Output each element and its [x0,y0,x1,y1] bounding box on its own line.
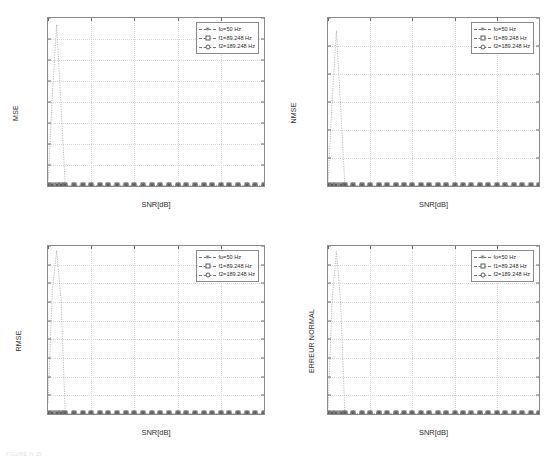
legend-item[interactable]: f1=89.248 Hz [474,34,530,43]
data-point-marker [444,183,449,188]
data-point-marker [192,411,197,416]
x-axis-tick-label: 40 [493,414,500,415]
legend-item[interactable]: f2=189.248 Hz [199,42,255,51]
data-point-marker [236,411,241,416]
x-axis-tick-label: 20 [131,186,138,187]
data-point-marker [385,411,390,416]
data-point-marker [141,411,146,416]
x-axis-tick-label: 10 [88,414,95,415]
data-point-marker [89,411,94,416]
x-axis-tick-label: 30 [451,414,458,415]
x-axis-tick-label: 40 [493,186,500,187]
data-point-marker [227,183,232,188]
legend-square-icon [474,34,491,41]
data-point-marker [418,183,423,188]
data-point-marker [376,411,381,416]
data-point-marker [342,411,347,416]
legend-star-icon: ✳ [474,26,491,33]
chart-legend[interactable]: ✳fo=50 Hzf1=89.248 Hzf2=189.248 Hz [471,250,534,282]
data-point-marker [511,183,516,188]
plot-area: 010203040500102030405060708090✳fo=50 Hzf… [327,245,540,415]
data-point-marker [63,411,68,416]
x-axis-label: SNR[dB] [47,428,265,437]
data-point-marker [477,183,482,188]
data-point-marker [115,411,120,416]
data-point-marker [97,183,102,188]
data-point-marker [141,183,146,188]
data-point-marker [132,411,137,416]
legend-label: f1=89.248 Hz [493,34,526,43]
chart-panel-rmse: RMSESNR[dB]01020304050010203040506070809… [0,228,275,453]
data-point-marker [166,411,171,416]
x-axis-tick-label: 30 [451,186,458,187]
legend-item[interactable]: f2=189.248 Hz [474,270,530,279]
data-point-marker [80,183,85,188]
legend-item[interactable]: ✳fo=50 Hz [199,253,255,262]
data-point-marker [511,411,516,416]
data-point-marker [418,411,423,416]
data-point-marker [175,411,180,416]
data-point-marker [149,411,154,416]
data-point-marker [452,183,457,188]
data-point-marker [401,183,406,188]
data-point-marker [244,183,249,188]
data-point-marker [469,411,474,416]
data-point-marker [236,183,241,188]
legend-item[interactable]: f1=89.248 Hz [199,262,255,271]
data-point-marker [486,411,491,416]
data-point-marker [435,411,440,416]
data-point-marker [351,183,356,188]
chart-legend[interactable]: ✳fo=50 Hzf1=89.248 Hzf2=189.248 Hz [471,22,534,54]
legend-item[interactable]: ✳fo=50 Hz [474,25,530,34]
legend-item[interactable]: ✳fo=50 Hz [199,25,255,34]
chart-legend[interactable]: ✳fo=50 Hzf1=89.248 Hzf2=189.248 Hz [196,22,259,54]
data-point-marker [528,411,533,416]
x-axis-tick-label: 0 [47,414,50,415]
data-point-marker [503,411,508,416]
y-axis-label: ERREUR NORMAL [308,308,315,372]
data-point-marker [368,183,373,188]
data-point-marker [166,183,171,188]
legend-item[interactable]: f1=89.248 Hz [474,262,530,271]
x-axis-tick-label: 0 [47,186,50,187]
legend-item[interactable]: f1=89.248 Hz [199,34,255,43]
data-point-marker [503,183,508,188]
legend-item[interactable]: f2=189.248 Hz [474,42,530,51]
data-point-marker [486,183,491,188]
plot-area: 010203040500102030405060708090✳fo=50 Hzf… [47,245,265,415]
x-axis-tick-label: 0 [327,186,330,187]
x-axis-tick-top [539,246,540,249]
x-axis-tick-label: 20 [131,414,138,415]
data-point-marker [385,183,390,188]
x-axis-tick-label: 30 [174,186,181,187]
x-axis-tick-top [264,18,265,21]
data-point-marker [63,183,68,188]
data-point-marker [97,411,102,416]
data-point-marker [262,411,266,416]
data-point-marker [201,183,206,188]
legend-label: f1=89.248 Hz [493,262,526,271]
data-point-marker [210,183,215,188]
data-point-marker [393,183,398,188]
data-point-marker [201,411,206,416]
x-axis-tick-label: 40 [217,414,224,415]
legend-item[interactable]: ✳fo=50 Hz [474,253,530,262]
legend-label: f1=89.248 Hz [218,262,251,271]
legend-item[interactable]: f2=189.248 Hz [199,270,255,279]
data-point-marker [106,183,111,188]
data-point-marker [452,411,457,416]
x-axis-tick [539,411,540,414]
legend-square-icon [474,262,491,269]
x-axis-label: SNR[dB] [47,200,265,209]
x-axis-tick-label: 50 [535,186,540,187]
data-point-marker [410,183,415,188]
data-point-marker [244,411,249,416]
data-point-marker [192,183,197,188]
x-axis-label: SNR[dB] [327,200,540,209]
legend-circle-icon [474,43,491,50]
x-axis-tick-top [539,18,540,21]
data-point-marker [444,411,449,416]
chart-legend[interactable]: ✳fo=50 Hzf1=89.248 Hzf2=189.248 Hz [196,250,259,282]
x-axis-label: SNR[dB] [327,428,540,437]
data-point-marker [359,411,364,416]
